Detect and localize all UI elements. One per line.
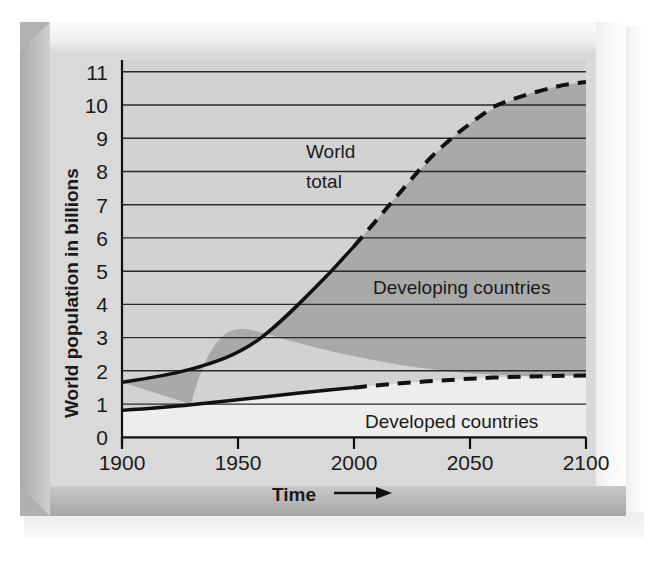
x-axis-title: Time [272, 485, 316, 504]
y-tick-label-8: 8 [82, 161, 108, 182]
y-tick-label-2: 2 [82, 361, 108, 382]
annotation-developing-countries: Developing countries [373, 278, 550, 297]
y-tick-label-5: 5 [82, 261, 108, 282]
x-tick-label-1900: 1900 [87, 452, 157, 473]
x-tick-label-2000: 2000 [319, 452, 389, 473]
y-tick-label-6: 6 [82, 228, 108, 249]
x-tick-label-2050: 2050 [435, 452, 505, 473]
y-axis-title: World population in billions [62, 168, 81, 418]
time-arrow-head [376, 487, 392, 499]
x-tick-label-1950: 1950 [203, 452, 273, 473]
y-tick-label-0: 0 [82, 427, 108, 448]
y-tick-label-1: 1 [82, 394, 108, 415]
y-tick-label-7: 7 [82, 195, 108, 216]
annotation-world-total-line1: World [306, 142, 355, 161]
annotation-world-total-line2: total [306, 172, 342, 191]
y-tick-label-10: 10 [82, 95, 108, 116]
y-tick-label-9: 9 [82, 128, 108, 149]
y-tick-label-3: 3 [82, 327, 108, 348]
plot-area [0, 0, 657, 568]
annotation-developed-countries: Developed countries [365, 412, 538, 431]
x-tick-label-2100: 2100 [551, 452, 621, 473]
y-tick-label-4: 4 [82, 294, 108, 315]
y-tick-label-11: 11 [82, 62, 108, 83]
time-axis-arrow [334, 487, 392, 499]
chart-figure: 11 10 9 8 7 6 5 4 3 2 1 0 1900 1950 2000… [0, 0, 657, 568]
